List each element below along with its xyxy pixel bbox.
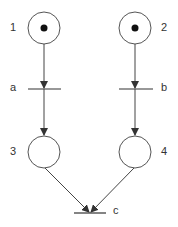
place-2 <box>119 12 151 44</box>
place-4 <box>119 136 151 168</box>
place-1 <box>28 12 60 44</box>
token-icon <box>132 25 139 32</box>
arc-3-c <box>45 168 89 212</box>
petri-net-diagram <box>0 0 178 227</box>
place-label-3: 3 <box>10 146 16 157</box>
place-3 <box>28 136 60 168</box>
place-label-4: 4 <box>161 146 167 157</box>
token-icon <box>41 25 48 32</box>
place-label-1: 1 <box>10 22 16 33</box>
transition-label-c: c <box>113 205 119 216</box>
transition-label-b: b <box>161 82 167 93</box>
place-label-2: 2 <box>161 22 167 33</box>
transition-label-a: a <box>10 82 16 93</box>
